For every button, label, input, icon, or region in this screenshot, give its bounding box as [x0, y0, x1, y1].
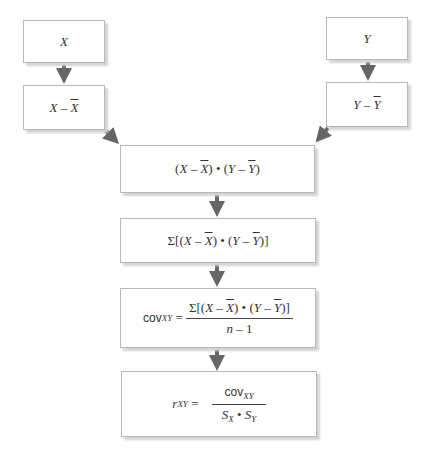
- arrow-xdev-to-product: [105, 130, 112, 137]
- node-correlation: rXY = covXY SX • SY: [121, 371, 317, 437]
- cov-fraction: Σ[(X – X) • (Y – Y)] n – 1: [186, 300, 293, 337]
- r-fraction: covXY SX • SY: [212, 384, 265, 424]
- node-x-deviation: X – X: [23, 85, 105, 130]
- node-sum: Σ[(X – X) • (Y – Y)]: [120, 218, 316, 263]
- node-x: X: [23, 20, 105, 63]
- arrow-ydev-to-product: [322, 128, 328, 135]
- r-denominator: SX • SY: [222, 405, 257, 424]
- node-y-deviation: Y – Y: [326, 82, 408, 127]
- r-numerator: covXY: [212, 384, 265, 405]
- node-covariance: covXY = Σ[(X – X) • (Y – Y)] n – 1: [120, 288, 316, 348]
- cov-numerator: Σ[(X – X) • (Y – Y)]: [186, 300, 293, 319]
- node-y: Y: [326, 17, 408, 60]
- cov-denominator: n – 1: [226, 319, 252, 337]
- node-product: (X – X) • (Y – Y): [120, 145, 315, 193]
